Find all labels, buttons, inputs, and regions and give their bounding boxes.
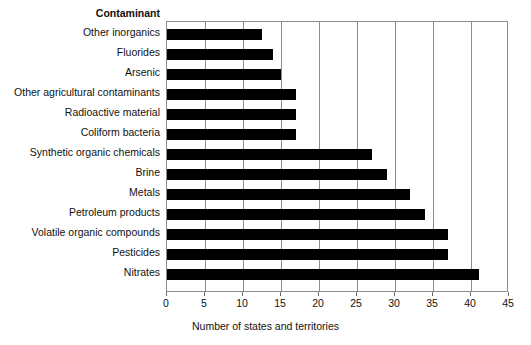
x-tick-label: 20	[312, 297, 324, 309]
x-tick-label: 45	[502, 297, 514, 309]
category-label: Coliform bacteria	[81, 127, 160, 138]
category-label: Brine	[135, 167, 160, 178]
x-tick	[204, 292, 205, 296]
category-axis-title: Contaminant	[96, 8, 160, 19]
bar	[167, 189, 410, 200]
x-tick-label: 35	[426, 297, 438, 309]
category-label: Other agricultural contaminants	[14, 87, 160, 98]
x-axis: 051015202530354045	[166, 292, 508, 312]
x-tick-label: 25	[350, 297, 362, 309]
category-label: Pesticides	[112, 247, 160, 258]
bar	[167, 89, 296, 100]
bar	[167, 129, 296, 140]
bar	[167, 249, 448, 260]
bar-chart-figure: ContaminantOther inorganicsFluoridesArse…	[0, 0, 531, 345]
x-tick	[394, 292, 395, 296]
x-tick-label: 5	[201, 297, 207, 309]
category-label: Synthetic organic chemicals	[30, 147, 160, 158]
category-label: Arsenic	[125, 67, 160, 78]
x-tick-label: 10	[236, 297, 248, 309]
category-axis-labels: ContaminantOther inorganicsFluoridesArse…	[0, 8, 164, 293]
bar	[167, 149, 372, 160]
category-label: Fluorides	[117, 47, 160, 58]
x-tick	[508, 292, 509, 296]
plot-area	[166, 21, 508, 292]
category-label: Other inorganics	[83, 27, 160, 38]
x-tick	[356, 292, 357, 296]
x-tick-label: 0	[163, 297, 169, 309]
category-label: Metals	[129, 187, 160, 198]
bar	[167, 229, 448, 240]
x-tick-label: 30	[388, 297, 400, 309]
category-label: Volatile organic compounds	[32, 227, 160, 238]
bar	[167, 29, 262, 40]
x-tick	[318, 292, 319, 296]
x-tick	[280, 292, 281, 296]
x-tick	[166, 292, 167, 296]
bar	[167, 269, 479, 280]
bar	[167, 109, 296, 120]
x-tick-label: 40	[464, 297, 476, 309]
category-label: Nitrates	[124, 267, 160, 278]
bar	[167, 169, 387, 180]
category-label: Radioactive material	[65, 107, 160, 118]
x-axis-title: Number of states and territories	[0, 320, 531, 332]
x-tick	[242, 292, 243, 296]
bar	[167, 69, 281, 80]
bar	[167, 209, 425, 220]
bar	[167, 49, 273, 60]
gridline-40	[471, 22, 472, 291]
category-label: Petroleum products	[69, 207, 160, 218]
x-tick	[432, 292, 433, 296]
x-tick-label: 15	[274, 297, 286, 309]
x-tick	[470, 292, 471, 296]
